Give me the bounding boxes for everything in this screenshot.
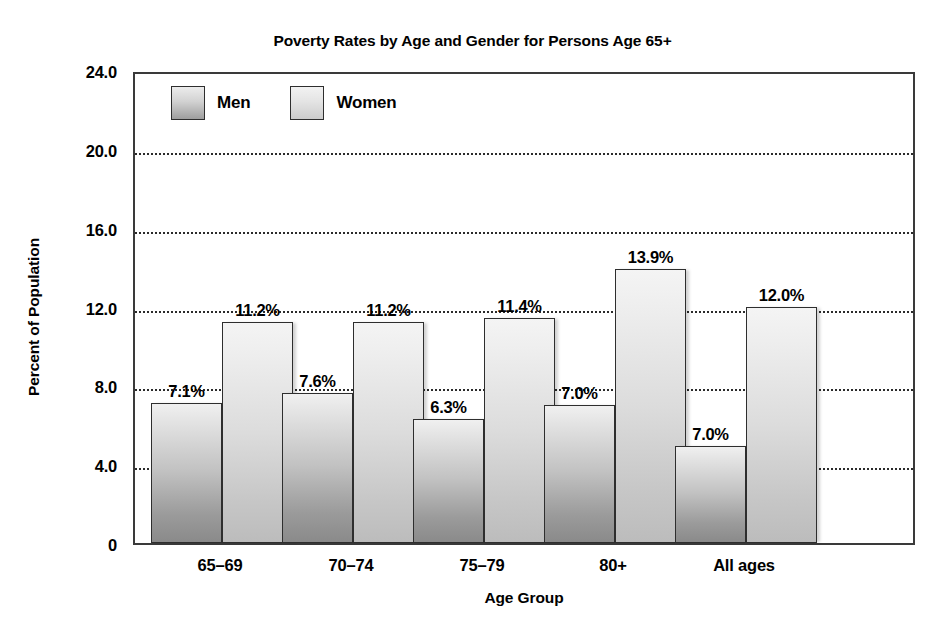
bar-value-label: 13.9% [628,248,673,267]
bar-men-2: 6.3% [413,419,484,543]
y-axis-tick: 24.0 [5,63,125,82]
gridline [135,153,913,155]
y-axis-tick-labels: 24.020.016.012.08.04.00 [0,72,125,545]
x-axis-title: Age Group [133,589,915,607]
bar-men-3: 7.0% [544,405,615,543]
x-axis-tick-2: 75–79 [460,556,505,575]
chart-title: Poverty Rates by Age and Gender for Pers… [0,32,945,50]
chart-figure: Poverty Rates by Age and Gender for Pers… [0,0,945,637]
gridline [135,232,913,234]
bar-women-4: 12.0% [746,307,817,544]
bar-men-1: 7.6% [282,393,353,543]
x-axis-tick-0: 65–69 [198,556,243,575]
bar-value-label: 7.0% [692,425,728,444]
bar-value-label: 11.2% [235,301,279,320]
y-axis-tick: 8.0 [5,378,125,397]
women-swatch-icon [290,86,324,120]
legend-entry-women: Women [290,86,396,120]
chart-legend: MenWomen [171,86,396,120]
x-axis-tick-1: 70–74 [329,556,374,575]
bar-men-0: 7.1% [151,403,222,543]
legend-label: Women [336,93,396,113]
men-swatch-icon [171,86,205,120]
legend-entry-men: Men [171,86,250,120]
y-axis-tick: 20.0 [5,141,125,160]
x-axis-tick-labels: 65–6970–7475–7980+All ages [133,556,915,586]
bar-value-label: 11.2% [366,301,410,320]
plot-area: 7.1%11.2%7.6%11.2%6.3%11.4%7.0%13.9%7.0%… [133,72,915,545]
y-axis-tick: 12.0 [5,299,125,318]
y-axis-tick: 0 [5,536,125,555]
x-axis-tick-4: All ages [713,556,775,575]
bar-value-label: 7.0% [561,384,597,403]
bar-value-label: 7.6% [299,372,335,391]
legend-label: Men [217,93,250,113]
bar-value-label: 6.3% [430,398,466,417]
bar-value-label: 7.1% [168,382,204,401]
bar-men-4: 7.0% [675,446,746,543]
bar-value-label: 12.0% [759,286,804,305]
x-axis-tick-3: 80+ [599,556,626,575]
bar-value-label: 11.4% [497,297,541,316]
y-axis-tick: 16.0 [5,220,125,239]
y-axis-tick: 4.0 [5,457,125,476]
